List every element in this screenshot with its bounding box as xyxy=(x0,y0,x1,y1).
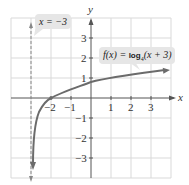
x-tick-label: 2 xyxy=(128,102,134,113)
graph-canvas xyxy=(0,0,189,185)
y-axis-arrow-icon xyxy=(89,18,94,25)
x-axis-arrow-icon xyxy=(169,96,176,101)
x-intercept-point xyxy=(49,96,53,100)
function-callout-prefix: f(x) = xyxy=(103,49,129,60)
x-tick-label: −2 xyxy=(44,102,56,113)
x-tick-label: 3 xyxy=(148,102,154,113)
x-axis-label: x xyxy=(178,92,183,103)
asymptote-arrow-up-icon xyxy=(29,22,33,28)
y-axis-label: y xyxy=(88,4,93,15)
y-tick-label: 2 xyxy=(81,53,87,64)
function-callout: f(x) = log4(x + 3) xyxy=(99,47,175,64)
y-tick-label: −3 xyxy=(75,153,87,164)
y-tick-label: 1 xyxy=(81,73,87,84)
function-callout-arg: (x + 3) xyxy=(144,49,172,60)
y-tick-label: 3 xyxy=(81,33,87,44)
curve-arrow-right-icon xyxy=(163,67,171,74)
x-tick-label: −1 xyxy=(64,102,76,113)
x-tick-label: 1 xyxy=(108,102,114,113)
y-tick-label: −2 xyxy=(75,133,87,144)
function-callout-log: log xyxy=(129,51,141,60)
y-tick-label: −1 xyxy=(75,113,87,124)
asymptote-arrow-down-icon xyxy=(29,176,33,182)
asymptote-callout: x = −3 xyxy=(35,14,71,29)
